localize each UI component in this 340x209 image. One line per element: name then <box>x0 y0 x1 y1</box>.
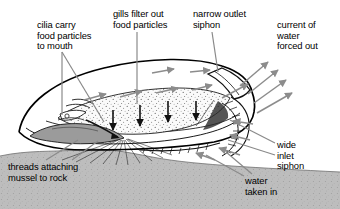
current-out-label: current of water forced out <box>277 20 318 52</box>
water-in-label: water taken in <box>245 176 277 197</box>
leader-outlet <box>212 32 218 72</box>
cilia-label: cilia carry food particles to mouth <box>37 20 91 52</box>
outlet-siphon-label: narrow outlet siphon <box>193 9 246 30</box>
gills-label: gills filter out food particles <box>113 9 167 30</box>
inlet-siphon-label: wide inlet siphon <box>277 140 304 172</box>
mussel-diagram: cilia carry food particles to mouth gill… <box>0 0 340 209</box>
threads-label: threads attaching mussel to rock <box>8 162 78 183</box>
